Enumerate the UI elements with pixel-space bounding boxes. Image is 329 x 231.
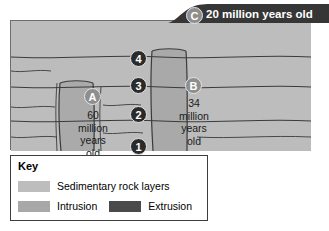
intrusion-a-age-line-2: million	[64, 122, 122, 135]
intrusion-b-age-line-2: million	[163, 110, 225, 123]
geologic-cross-section: 4 3 2 1 A B 60 million years old 34 mill…	[10, 20, 310, 150]
legend-key: Key Sedimentary rock layers Intrusion Ex…	[10, 155, 208, 221]
legend-label-extrusion: Extrusion	[148, 200, 192, 212]
legend-swatch-sedimentary	[18, 181, 50, 192]
layer-badge-4: 4	[130, 50, 147, 67]
extrusion-badge-c: C	[186, 7, 203, 24]
intrusion-a-age-line-3: years	[64, 134, 122, 147]
intrusion-b-age-label: 34 million years old	[163, 97, 225, 147]
legend-title: Key	[18, 160, 200, 173]
layer-badge-1: 1	[130, 138, 147, 155]
legend-label-intrusion: Intrusion	[57, 200, 97, 212]
intrusion-badge-b: B	[185, 77, 202, 94]
intrusion-a-age-line-1: 60	[64, 109, 122, 122]
intrusion-b-age-line-1: 34	[163, 97, 225, 110]
legend-row-intrusion-extrusion: Intrusion Extrusion	[18, 196, 200, 216]
layer-badge-3: 3	[130, 77, 147, 94]
legend-label-sedimentary: Sedimentary rock layers	[57, 180, 170, 192]
intrusion-a-age-label: 60 million years old	[64, 109, 122, 159]
cross-section-graphic	[11, 21, 311, 151]
extrusion-age-label: 20 million years old	[206, 8, 313, 20]
legend-swatch-intrusion	[18, 201, 50, 212]
intrusion-b-age-line-3: years	[163, 122, 225, 135]
intrusion-badge-a: A	[84, 88, 101, 105]
intrusion-b-age-line-4: old	[163, 135, 225, 148]
legend-row-sedimentary: Sedimentary rock layers	[18, 176, 200, 196]
layer-badge-2: 2	[130, 106, 147, 123]
extrusion-band: C 20 million years old	[168, 4, 329, 23]
legend-swatch-extrusion	[109, 201, 141, 212]
